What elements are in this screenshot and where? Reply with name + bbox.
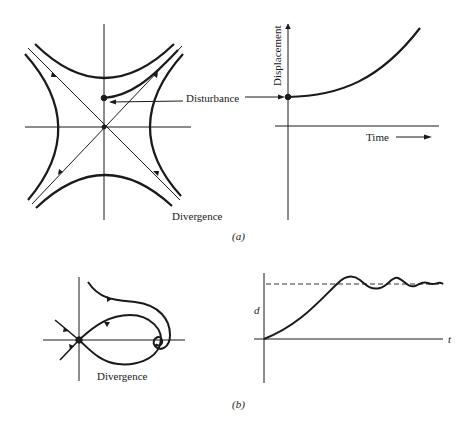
- spiral-phase-portrait: [43, 277, 185, 381]
- time-label: Time: [366, 131, 389, 143]
- node-point: [76, 337, 82, 343]
- disturbance-leader: [111, 101, 183, 102]
- divergence-label-a: Divergence: [172, 210, 223, 222]
- t-label: t: [448, 333, 452, 345]
- displacement-label: Displacement: [271, 26, 283, 86]
- d-label: d: [254, 304, 260, 316]
- figure-canvas: Disturbance Divergence Displacement Time…: [0, 0, 475, 431]
- disturbance-label: Disturbance: [186, 92, 239, 104]
- arrow-icon: [104, 322, 110, 327]
- saddle-origin: [102, 125, 106, 129]
- oscillating-response-curve: [264, 276, 443, 339]
- incoming-trajectory-lower: [60, 340, 79, 360]
- caption-b: (b): [232, 398, 245, 411]
- arrow-icon: [278, 95, 285, 100]
- damped-response-plot: [254, 273, 443, 383]
- divergent-response-curve: [288, 28, 420, 97]
- disturbance-point: [101, 95, 107, 101]
- caption-a: (a): [232, 230, 245, 243]
- leader-arrow-icon: [109, 100, 116, 105]
- arrow-icon: [51, 72, 57, 77]
- arrow-icon: [107, 296, 112, 302]
- saddle-phase-portrait: [25, 24, 191, 220]
- initial-disturbance-point: [285, 94, 291, 100]
- divergence-label-b: Divergence: [97, 370, 148, 382]
- time-arrow-icon: [424, 135, 432, 140]
